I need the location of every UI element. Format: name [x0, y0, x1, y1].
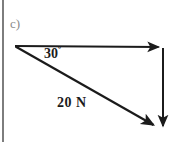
magnitude-label: 20 N [57, 96, 87, 110]
resultant-force-vector [16, 47, 154, 126]
angle-label: 30º [44, 47, 61, 61]
angle-value: 30 [44, 46, 58, 61]
degree-symbol: º [58, 44, 61, 54]
figure-container: c) 30º 20 N [0, 0, 173, 142]
vector-diagram [0, 0, 173, 142]
horizontal-component-vector [15, 46, 159, 47]
